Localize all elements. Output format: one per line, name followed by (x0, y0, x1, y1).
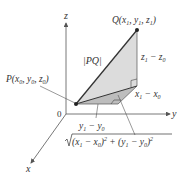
horizontal-distance-label: (x1 − x0)2 + (y1 − y0)2 (65, 134, 172, 148)
z-diff-label: z1 − z0 (140, 52, 166, 63)
p-leader (40, 86, 75, 103)
origin-label: 0 (57, 109, 62, 119)
z-axis-label: z (63, 10, 68, 21)
point-q (135, 28, 139, 32)
sqrt-leader (118, 95, 135, 135)
y-diff-leader (96, 104, 98, 118)
point-q-label: Q(x1, y1, z1) (112, 15, 156, 26)
svg-text:(x1 − x0)2 + (y1 − y0)2: (x1 − x0)2 + (y1 − y0)2 (72, 136, 153, 148)
x-diff-label: x1 − x0 (134, 89, 161, 100)
x-axis (31, 114, 66, 163)
point-p (74, 102, 78, 106)
point-p-label: P(x0, y0, z0) (5, 74, 49, 85)
pq-length-label: |PQ| (83, 55, 102, 66)
y-diff-label: y1 − y0 (78, 121, 105, 132)
y-axis-label: y (171, 108, 177, 119)
distance-3d-diagram: z y x 0 Q(x1, y1, z1) P(x0, y0, z0) |PQ|… (0, 0, 183, 181)
x-axis-label: x (25, 163, 31, 174)
